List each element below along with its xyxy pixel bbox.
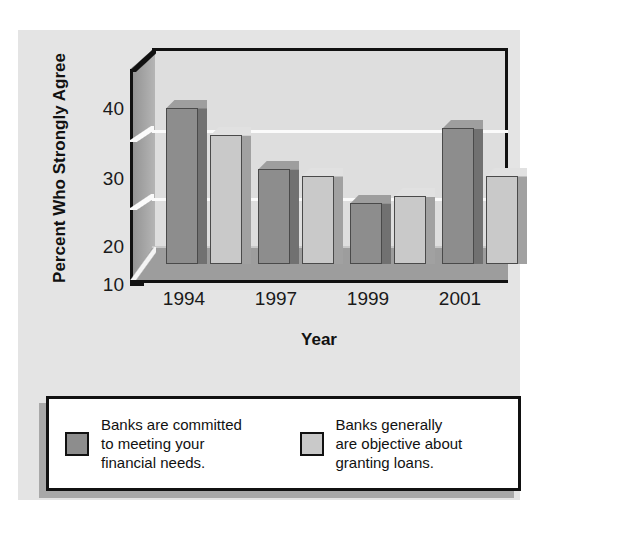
plot-top-slant-edge xyxy=(130,48,156,72)
bar-side xyxy=(426,188,435,264)
bar-1999-series-1 xyxy=(350,203,382,264)
y-tick-label-10: 10 xyxy=(84,274,124,296)
bar-face xyxy=(394,196,426,264)
bar-side xyxy=(198,100,207,264)
bar-side xyxy=(334,168,343,264)
legend: Banks are committed to meeting your fina… xyxy=(46,396,521,491)
y-tick-label-40: 40 xyxy=(84,98,124,120)
x-tick-label-1997: 1997 xyxy=(231,288,321,310)
legend-label-series-1: Banks are committed to meeting your fina… xyxy=(101,415,242,472)
bar-face xyxy=(442,128,474,264)
y-tick-label-30: 30 xyxy=(84,168,124,190)
bar-face xyxy=(302,176,334,264)
x-tick-label-2001: 2001 xyxy=(415,288,505,310)
legend-label-series-2: Banks generally are objective about gran… xyxy=(336,415,463,472)
legend-swatch-series-2 xyxy=(300,432,324,456)
bar-side xyxy=(518,168,527,264)
plot-floor-front-edge xyxy=(130,280,508,283)
bar-1997-series-2 xyxy=(302,176,334,264)
bar-1999-series-2 xyxy=(394,196,426,264)
bar-face xyxy=(166,108,198,264)
bar-2001-series-2 xyxy=(486,176,518,264)
bar-face xyxy=(486,176,518,264)
bar-face xyxy=(258,169,290,264)
gridline-20-kink xyxy=(130,194,154,210)
x-tick-label-1999: 1999 xyxy=(323,288,413,310)
x-tick-label-1994: 1994 xyxy=(139,288,229,310)
bar-side xyxy=(290,161,299,264)
plot-floor-highlight xyxy=(130,247,156,283)
x-axis-title: Year xyxy=(130,330,508,350)
bar-side xyxy=(474,120,483,264)
gridline-30-kink xyxy=(130,126,154,142)
y-tick-label-20: 20 xyxy=(84,236,124,258)
plot-area xyxy=(130,48,508,283)
bar-face xyxy=(350,203,382,264)
bar-1997-series-1 xyxy=(258,169,290,264)
bar-face xyxy=(210,135,242,264)
legend-swatch-series-1 xyxy=(65,432,89,456)
y-axis-title: Percent Who Strongly Agree xyxy=(50,48,70,288)
bar-side xyxy=(382,195,391,264)
bar-side xyxy=(242,127,251,264)
bar-1994-series-1 xyxy=(166,108,198,264)
legend-item-1: Banks generally are objective about gran… xyxy=(284,415,519,472)
bar-chart: Percent Who Strongly Agree 40 30 20 10 1… xyxy=(18,30,520,370)
legend-item-0: Banks are committed to meeting your fina… xyxy=(49,415,284,472)
bar-2001-series-1 xyxy=(442,128,474,264)
y-tick-mark-10 xyxy=(130,283,144,286)
bar-1994-series-2 xyxy=(210,135,242,264)
